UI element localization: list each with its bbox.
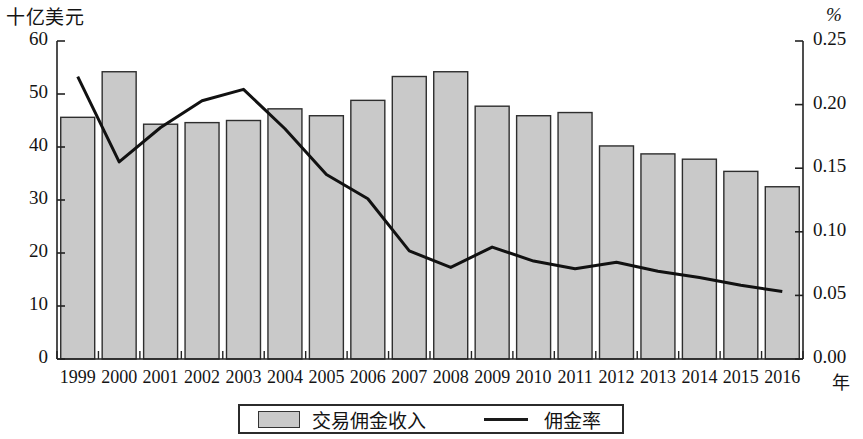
commission-rate-line [78,77,783,292]
bar-2014 [682,159,716,359]
chart-legend: 交易佣金收入 佣金率 [238,404,624,434]
chart-container: 十亿美元 % 0102030405060 0.000.050.100.150.2… [0,0,863,439]
legend-item-bars: 交易佣金收入 [258,406,426,433]
bar-2007 [392,77,426,359]
legend-line-label: 佣金率 [544,406,601,433]
bar-2010 [517,116,551,359]
bar-2006 [351,100,385,359]
right-tick-label-0.25: 0.25 [813,28,863,50]
left-tick-label-20: 20 [8,240,48,262]
legend-bars-label: 交易佣金收入 [312,406,426,433]
bar-2002 [185,123,219,359]
right-tick-label-0.15: 0.15 [813,155,863,177]
bar-2005 [309,116,343,359]
bar-2009 [475,106,509,359]
bar-2015 [724,171,758,359]
left-tick-label-30: 30 [8,187,48,209]
x-tick-label-2016: 2016 [756,367,808,388]
bar-2001 [144,124,178,359]
bar-2013 [641,154,675,359]
right-tick-label-0.00: 0.00 [813,346,863,368]
x-axis-unit-label: 年 [832,368,850,394]
legend-item-line: 佣金率 [484,406,601,433]
right-tick-label-0.20: 0.20 [813,92,863,114]
bar-2004 [268,109,302,359]
bar-2003 [227,121,261,360]
bar-2008 [434,72,468,359]
bar-2012 [600,146,634,359]
left-tick-label-0: 0 [8,346,48,368]
legend-bar-swatch-icon [258,411,300,428]
bar-2016 [765,187,799,359]
left-tick-label-10: 10 [8,293,48,315]
left-tick-label-60: 60 [8,28,48,50]
right-tick-label-0.05: 0.05 [813,282,863,304]
bar-series [61,72,800,359]
bar-1999 [61,117,95,359]
right-tick-label-0.10: 0.10 [813,219,863,241]
left-tick-label-40: 40 [8,134,48,156]
bar-2000 [102,72,136,359]
legend-line-swatch-icon [484,418,528,421]
left-tick-label-50: 50 [8,81,48,103]
bar-2011 [558,113,592,359]
